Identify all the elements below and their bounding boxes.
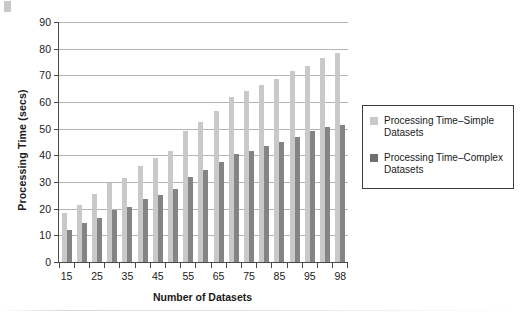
- bar-group: [181, 22, 196, 262]
- legend-label-simple: Processing Time–Simple Datasets: [384, 115, 494, 139]
- legend-item-complex: Processing Time–Complex Datasets: [370, 152, 506, 176]
- x-axis-tick: [105, 262, 120, 268]
- y-axis-tick-label: 50: [39, 123, 51, 135]
- bar-complex: [188, 177, 193, 262]
- bar-group: [302, 22, 317, 262]
- dark-gray-swatch-icon: [370, 154, 378, 162]
- legend-label-simple-line2: Datasets: [384, 127, 423, 138]
- bar-group: [150, 22, 165, 262]
- legend-item-simple: Processing Time–Simple Datasets: [370, 115, 506, 139]
- x-axis-tick-label: [196, 270, 211, 284]
- scan-artifact-mark: [4, 1, 11, 12]
- bar-group: [196, 22, 211, 262]
- y-axis-tick-label: 80: [39, 43, 51, 55]
- x-axis-tick-label: 75: [241, 270, 256, 284]
- x-axis-tick: [181, 262, 196, 268]
- x-axis-tick-label: 55: [181, 270, 196, 284]
- bar-complex: [97, 218, 102, 262]
- legend-label-complex: Processing Time–Complex Datasets: [384, 152, 503, 176]
- x-axis-tick-label: [257, 270, 272, 284]
- bar-group: [272, 22, 287, 262]
- bar-complex: [158, 195, 163, 262]
- x-axis-tick-label: 35: [120, 270, 135, 284]
- x-axis-tick: [59, 262, 74, 268]
- x-axis-tick-label: [287, 270, 302, 284]
- bar-complex: [127, 207, 132, 262]
- bar-complex: [219, 162, 224, 262]
- y-axis-tick-label: 10: [39, 229, 51, 241]
- y-axis-tick-label: 40: [39, 149, 51, 161]
- x-axis-tick-labels: 15253545556575859598: [59, 270, 348, 284]
- y-axis-tick-label: 60: [39, 96, 51, 108]
- x-axis-ticks: [59, 262, 348, 268]
- bar-complex: [325, 127, 330, 262]
- bar-group: [105, 22, 120, 262]
- x-axis-tick: [135, 262, 150, 268]
- bar-group: [257, 22, 272, 262]
- x-axis-tick: [150, 262, 165, 268]
- legend-label-complex-line2: Datasets: [384, 164, 423, 175]
- bar-complex: [279, 142, 284, 262]
- y-axis-tick-label: 0: [45, 256, 51, 268]
- bar-complex: [340, 125, 345, 262]
- x-axis-tick-label: [317, 270, 332, 284]
- chart-legend: Processing Time–Simple Datasets Processi…: [362, 105, 514, 189]
- bar-group: [211, 22, 226, 262]
- x-axis-tick-label: 95: [302, 270, 317, 284]
- y-axis-title: Processing Time (secs): [16, 40, 28, 260]
- x-axis-tick-label: [74, 270, 89, 284]
- bar-complex: [310, 131, 315, 262]
- bar-group: [165, 22, 180, 262]
- x-axis-tick: [241, 262, 256, 268]
- plot-area: 0102030405060708090 15253545556575859598: [58, 22, 347, 263]
- bar-complex: [264, 146, 269, 262]
- x-axis-tick: [317, 262, 332, 268]
- y-axis-tick-label: 30: [39, 176, 51, 188]
- x-axis-tick: [333, 262, 348, 268]
- bar-complex: [295, 137, 300, 262]
- x-axis-tick: [287, 262, 302, 268]
- x-axis-tick: [226, 262, 241, 268]
- page-edge-smudge: [0, 310, 524, 311]
- x-axis-tick: [89, 262, 104, 268]
- x-axis-tick: [257, 262, 272, 268]
- bar-complex: [249, 151, 254, 262]
- bar-complex: [112, 210, 117, 262]
- bar-complex: [234, 154, 239, 262]
- x-axis-tick: [165, 262, 180, 268]
- bar-complex: [203, 170, 208, 262]
- x-axis-title: Number of Datasets: [58, 291, 347, 303]
- y-axis-tick-label: 20: [39, 203, 51, 215]
- legend-label-complex-line1: Processing Time–Complex: [384, 152, 503, 163]
- legend-label-simple-line1: Processing Time–Simple: [384, 115, 494, 126]
- x-axis-tick-label: 45: [150, 270, 165, 284]
- bar-series-layer: [59, 22, 348, 262]
- light-gray-swatch-icon: [370, 117, 378, 125]
- x-axis-tick-label: [135, 270, 150, 284]
- bar-group: [89, 22, 104, 262]
- bar-chart-figure: Processing Time (secs) 01020304050607080…: [0, 0, 524, 314]
- x-axis-tick: [196, 262, 211, 268]
- bar-group: [241, 22, 256, 262]
- x-axis-tick-label: 65: [211, 270, 226, 284]
- y-axis-tick-label: 90: [39, 16, 51, 28]
- x-axis-tick: [211, 262, 226, 268]
- y-axis-tick-label: 70: [39, 69, 51, 81]
- x-axis-tick-label: 98: [333, 270, 348, 284]
- bar-group: [287, 22, 302, 262]
- x-axis-tick: [74, 262, 89, 268]
- bar-complex: [67, 230, 72, 262]
- bar-group: [333, 22, 348, 262]
- bar-group: [317, 22, 332, 262]
- bar-group: [74, 22, 89, 262]
- bar-complex: [143, 199, 148, 262]
- x-axis-tick-label: [226, 270, 241, 284]
- bar-group: [226, 22, 241, 262]
- bar-complex: [82, 223, 87, 262]
- bar-group: [120, 22, 135, 262]
- x-axis-tick-label: 85: [272, 270, 287, 284]
- bar-group: [59, 22, 74, 262]
- x-axis-tick: [272, 262, 287, 268]
- x-axis-tick: [302, 262, 317, 268]
- bar-complex: [173, 189, 178, 262]
